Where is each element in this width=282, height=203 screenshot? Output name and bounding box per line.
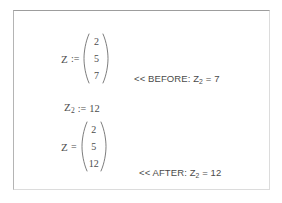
before-vector-cells: 2 5 7 [90, 33, 102, 84]
before-annotation-marker: << [134, 73, 145, 84]
after-annotation-equals: = [202, 167, 208, 178]
assignment-operator: := [78, 103, 86, 114]
vector-cell: 5 [88, 138, 100, 155]
assignment-variable-letter: Z [64, 101, 71, 113]
after-annotation-label: AFTER: [153, 167, 187, 178]
vector-cell: 2 [88, 121, 100, 138]
page-canvas: Z := 2 5 7 [0, 0, 282, 203]
before-annotation-equals: = [206, 73, 212, 84]
vector-left-paren-icon [81, 121, 88, 172]
assignment-subscript: 2 [71, 106, 75, 115]
before-expression: Z := 2 5 7 [61, 33, 109, 84]
element-assignment: Z2 := 12 [64, 101, 100, 115]
after-expression: Z = 2 5 12 [61, 121, 107, 172]
vector-cell: 2 [90, 33, 102, 50]
after-annotation-subscript: 2 [196, 172, 200, 179]
vector-cell: 5 [90, 50, 102, 67]
vector-cell: 7 [90, 67, 102, 84]
worksheet-frame: Z := 2 5 7 [13, 10, 270, 190]
after-annotation-marker: << [139, 167, 150, 178]
before-annotation-subscript: 2 [199, 78, 203, 85]
after-vector-cells: 2 5 12 [88, 121, 100, 172]
assignment-value: 12 [89, 103, 100, 114]
before-variable: Z [61, 53, 68, 65]
after-annotation: << AFTER: Z2 = 12 [139, 167, 221, 179]
after-vector: 2 5 12 [81, 121, 107, 172]
after-annotation-value: 12 [211, 167, 222, 178]
before-operator: := [71, 53, 79, 64]
before-annotation: << BEFORE: Z2 = 7 [134, 73, 220, 85]
before-annotation-value: 7 [214, 73, 219, 84]
vector-right-paren-icon [102, 33, 109, 84]
vector-right-paren-icon [100, 121, 107, 172]
before-annotation-label: BEFORE: [148, 73, 190, 84]
after-operator: = [71, 141, 77, 152]
assignment-variable: Z2 [64, 101, 75, 115]
after-variable: Z [61, 141, 68, 153]
vector-left-paren-icon [83, 33, 90, 84]
vector-cell: 12 [88, 155, 100, 172]
before-vector: 2 5 7 [83, 33, 109, 84]
